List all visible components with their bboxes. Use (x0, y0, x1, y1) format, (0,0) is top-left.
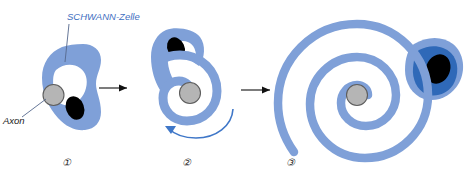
myelination-diagram: SCHWANN-Zelle Axon ① ② (0, 0, 473, 181)
axon-label: Axon (2, 115, 25, 126)
schwann-cell-label: SCHWANN-Zelle (67, 11, 140, 22)
stage-number-3: ③ (286, 157, 296, 168)
diagram-canvas: SCHWANN-Zelle Axon ① ② (0, 0, 473, 181)
arrow-stage2-to-stage3 (241, 87, 270, 94)
arrow-stage1-to-stage2 (99, 85, 127, 92)
stage-2-group: ② (151, 28, 233, 168)
stage-number-1: ① (62, 157, 72, 168)
axon-circle-stage1 (43, 85, 64, 106)
stage-number-2: ② (182, 157, 192, 168)
axon-circle-stage2 (180, 83, 201, 104)
axon-circle-stage3 (347, 85, 368, 106)
stage-3-group: ③ (278, 24, 463, 168)
axon-label-leader-line (22, 99, 46, 117)
